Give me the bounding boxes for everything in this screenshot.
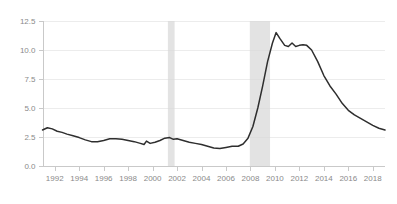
x-tick-label: 2006 — [217, 174, 235, 183]
y-tick-label: 2.5 — [24, 133, 36, 142]
y-axis — [39, 21, 44, 167]
x-tick-label: 2004 — [193, 174, 211, 183]
x-tick-label: 2014 — [315, 174, 333, 183]
x-axis — [43, 167, 386, 171]
x-tick-label: 1992 — [46, 174, 64, 183]
x-tick-label: 1994 — [70, 174, 88, 183]
x-tick-label: 2012 — [290, 174, 308, 183]
x-tick-label: 1996 — [95, 174, 113, 183]
gridlines-group — [43, 22, 386, 167]
x-tick-label: 2010 — [266, 174, 284, 183]
chart-container: 0.02.55.07.510.012.5 1992199419961998200… — [0, 0, 397, 204]
x-tick-label: 2008 — [242, 174, 260, 183]
x-tick-label: 2018 — [364, 174, 382, 183]
y-tick-label: 10.0 — [20, 46, 36, 55]
x-tick-label: 2000 — [144, 174, 162, 183]
x-tick-label: 2002 — [168, 174, 186, 183]
y-tick-labels-group: 0.02.55.07.510.012.5 — [20, 17, 36, 171]
y-tick-label: 7.5 — [24, 75, 36, 84]
recession-bands-group — [168, 21, 270, 166]
y-tick-label: 5.0 — [24, 104, 36, 113]
y-tick-label: 12.5 — [20, 17, 36, 26]
recession-band — [168, 21, 175, 166]
recession-band — [250, 21, 270, 166]
y-tick-label: 0.0 — [24, 162, 36, 171]
x-tick-label: 2016 — [339, 174, 357, 183]
line-chart: 0.02.55.07.510.012.5 1992199419961998200… — [0, 0, 397, 204]
x-tick-label: 1998 — [119, 174, 137, 183]
x-tick-labels-group: 1992199419961998200020022004200620082010… — [46, 174, 382, 183]
